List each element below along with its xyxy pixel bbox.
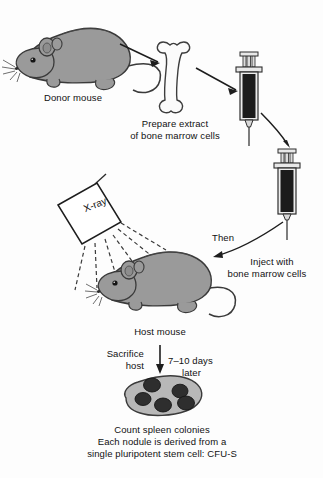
sacrifice-label-line2: host bbox=[88, 360, 144, 372]
host-mouse-icon bbox=[85, 252, 235, 317]
donor-mouse-label: Donor mouse bbox=[18, 92, 128, 104]
days-label-line1: 7–10 days bbox=[168, 355, 246, 367]
inject-label-line2: bone marrow cells bbox=[212, 268, 322, 280]
arrow-bone-to-syringe bbox=[196, 68, 238, 95]
prepare-extract-line2: of bone marrow cells bbox=[110, 130, 240, 142]
cfus-assay-diagram: Donor mouse Prepare extract of bone marr… bbox=[0, 0, 323, 478]
caption-line3: single pluripotent stem cell: CFU-S bbox=[22, 448, 302, 460]
prepare-extract-line1: Prepare extract bbox=[110, 118, 240, 130]
spleen-icon bbox=[125, 376, 202, 416]
days-label-line2: later bbox=[182, 367, 246, 379]
donor-mouse-icon bbox=[2, 28, 160, 92]
curved-arrow-syringe-to-syringe bbox=[261, 113, 290, 148]
host-mouse-label: Host mouse bbox=[110, 326, 210, 338]
diagram-canvas bbox=[0, 0, 323, 478]
caption-line2: Each nodule is derived from a bbox=[22, 436, 302, 448]
sacrifice-label-line1: Sacrifice bbox=[88, 348, 144, 360]
inject-label-line1: Inject with bbox=[222, 256, 322, 268]
caption-line1: Count spleen colonies bbox=[22, 424, 302, 436]
arrow-host-to-spleen bbox=[156, 345, 164, 374]
then-label: Then bbox=[212, 232, 262, 244]
bone-icon bbox=[157, 42, 189, 113]
